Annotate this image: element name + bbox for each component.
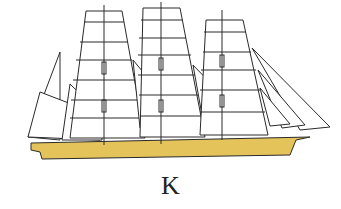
figure-label: K bbox=[0, 171, 341, 201]
mast3-sails bbox=[200, 20, 268, 135]
mast1-sails bbox=[70, 11, 145, 138]
